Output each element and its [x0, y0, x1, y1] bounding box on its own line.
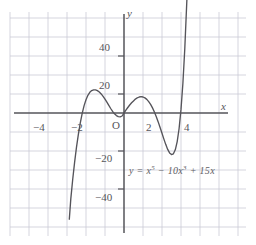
equation-term-3: 15x: [200, 165, 215, 176]
equation-equals: =: [137, 165, 144, 176]
x-tick-label-2: 2: [146, 122, 152, 133]
equation-term-2-coefficient: 10: [168, 165, 179, 176]
grid-horizontal: [10, 18, 246, 227]
y-tick-label-minus-20: −20: [95, 153, 112, 164]
y-axis-label: y: [127, 8, 132, 19]
y-tick-label-20: 20: [99, 80, 110, 91]
equation-plus: +: [190, 165, 197, 176]
curve-equation-label: y = x5 − 10x3 + 15x: [129, 166, 215, 176]
equation-lhs: y: [129, 165, 134, 176]
function-curve: [69, 0, 187, 219]
equation-term-1-exponent: 5: [151, 164, 155, 172]
x-tick-label-minus-2: −2: [71, 122, 83, 133]
origin-label: O: [112, 120, 120, 131]
x-axis-label: x: [221, 101, 226, 112]
equation-term-2-exponent: 3: [183, 164, 187, 172]
graph-figure: 40 20 −20 −40 −4 −2 2 4 O y x y = x5 − 1…: [0, 0, 256, 245]
y-tick-label-minus-40: −40: [95, 192, 112, 203]
equation-minus: −: [158, 165, 165, 176]
y-tick-label-40: 40: [99, 42, 110, 53]
x-tick-label-minus-4: −4: [33, 122, 45, 133]
x-tick-label-4: 4: [184, 122, 190, 133]
